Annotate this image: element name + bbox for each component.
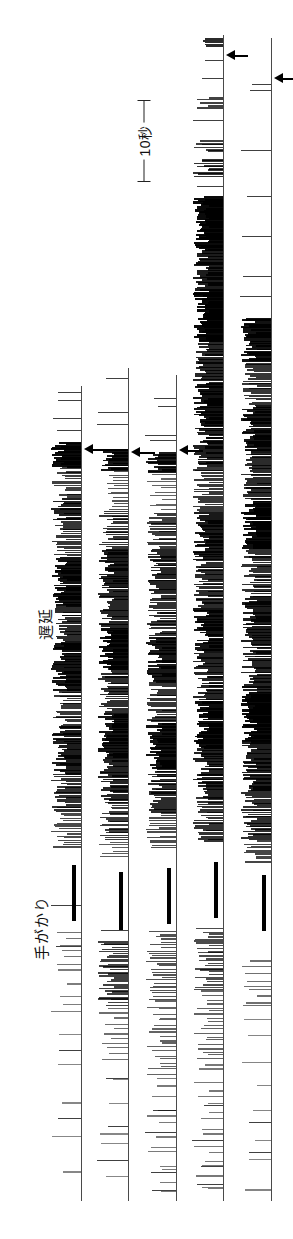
response-tick (160, 1036, 176, 1037)
response-tick (161, 1191, 176, 1192)
cue-event-bar (167, 868, 171, 924)
response-tick (107, 519, 128, 520)
response-tick (193, 779, 223, 780)
response-tick (244, 1019, 271, 1020)
response-tick (157, 1085, 176, 1086)
response-tick (162, 1169, 176, 1170)
response-tick-isolated (243, 276, 271, 277)
response-tick (196, 560, 223, 561)
response-tick (110, 821, 128, 822)
response-tick-isolated (158, 406, 176, 407)
response-tick (102, 587, 128, 588)
response-tick (150, 624, 176, 626)
response-tick (208, 1054, 223, 1055)
response-tick (153, 1014, 176, 1015)
response-tick (207, 981, 223, 982)
response-tick-isolated (249, 1122, 271, 1123)
response-tick (198, 459, 223, 460)
response-tick-isolated (58, 1118, 81, 1119)
arrow-shaft (281, 78, 293, 80)
response-tick (57, 823, 81, 824)
response-tick (253, 1110, 271, 1111)
response-tick (162, 499, 176, 500)
response-tick (102, 1043, 128, 1044)
response-tick (209, 1010, 223, 1011)
response-tick-isolated (150, 440, 176, 441)
arrow-shaft (91, 449, 108, 451)
response-tick (152, 485, 176, 486)
response-tick (102, 853, 128, 854)
response-tick (209, 933, 223, 934)
response-tick (60, 468, 81, 469)
response-tick (149, 931, 176, 933)
response-tick (113, 477, 128, 478)
response-tick (54, 824, 81, 825)
response-tick-isolated (145, 435, 176, 436)
response-tick (205, 1064, 223, 1065)
response-tick-isolated (247, 196, 271, 197)
response-tick (113, 1079, 128, 1080)
response-tick (251, 474, 271, 475)
response-tick (246, 826, 271, 827)
cue-event-bar (262, 875, 266, 931)
response-tick (109, 1103, 128, 1104)
cue-event-bar (119, 872, 123, 930)
response-tick (61, 707, 81, 708)
response-tick (148, 1068, 176, 1069)
response-tick (257, 1085, 271, 1086)
response-tick (113, 791, 128, 793)
response-tick (160, 1058, 176, 1059)
response-tick (64, 548, 81, 549)
response-tick (207, 1018, 223, 1019)
response-tick (147, 481, 176, 482)
response-tick (198, 1048, 223, 1050)
response-tick (54, 485, 81, 486)
response-tick (206, 45, 223, 47)
response-tick (146, 979, 176, 981)
response-tick (152, 776, 176, 777)
response-tick (146, 961, 176, 963)
response-tick (208, 150, 223, 152)
response-tick (257, 818, 271, 819)
response-tick (114, 1017, 128, 1018)
track-baseline (223, 35, 224, 1201)
response-tick (199, 955, 223, 957)
response-tick (242, 966, 271, 967)
response-tick (57, 964, 81, 965)
response-tick (199, 567, 223, 569)
response-tick (202, 494, 223, 495)
response-tick (208, 595, 223, 596)
scale-bar: 10秒 (134, 100, 154, 181)
response-tick (207, 1003, 223, 1004)
response-tick (159, 1122, 176, 1123)
response-tick (150, 528, 176, 530)
response-tick-isolated (152, 1190, 176, 1191)
response-tick (54, 792, 81, 794)
response-tick (112, 808, 128, 809)
response-tick (202, 1129, 223, 1130)
marker-arrow-icon (131, 447, 155, 458)
response-tick (251, 593, 271, 594)
response-tick (207, 812, 223, 813)
response-tick (152, 992, 176, 993)
response-tick (159, 1008, 176, 1009)
response-tick-isolated (192, 1140, 223, 1141)
response-tick (64, 815, 81, 816)
response-tick (194, 1146, 223, 1147)
response-tick (111, 523, 128, 524)
scale-bar-label: 10秒 (133, 122, 155, 159)
response-tick-isolated (240, 296, 271, 297)
response-tick (201, 1028, 223, 1029)
response-tick (256, 399, 271, 400)
response-tick (107, 483, 128, 484)
response-tick (254, 371, 271, 372)
response-tick (255, 656, 271, 657)
marker-arrow-icon (84, 444, 108, 455)
response-tick (110, 813, 128, 815)
axis-caption-cue: 手がかり (30, 896, 51, 960)
response-tick (64, 842, 81, 843)
response-tick-isolated (106, 1078, 128, 1079)
response-tick (53, 519, 81, 521)
figure-canvas: 10秒遅延手がかり (0, 0, 293, 1239)
response-tick (112, 847, 128, 848)
